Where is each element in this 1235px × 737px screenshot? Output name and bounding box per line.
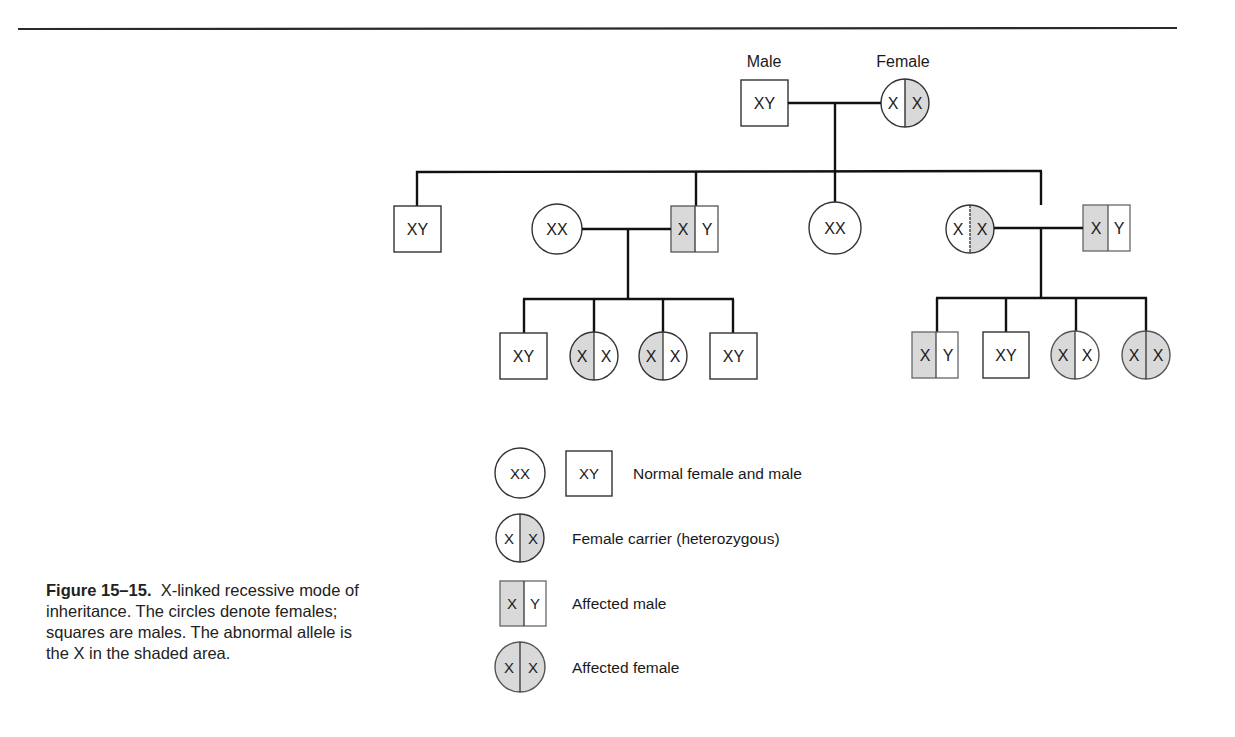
legend-label-normal: Normal female and male: [633, 465, 802, 482]
g2-spouse-1-normal-female: XX: [532, 204, 582, 254]
svg-text:X: X: [953, 221, 964, 238]
g1-mother-carrier-female: X X: [881, 79, 929, 127]
svg-text:X: X: [504, 659, 514, 676]
top-rule: [18, 28, 1177, 29]
legend-row-affected-female: X X Affected female: [495, 642, 679, 692]
svg-text:X: X: [601, 348, 612, 365]
svg-text:X: X: [1082, 347, 1093, 364]
g2-spouse-2-affected-male: X Y: [1083, 205, 1130, 251]
g2-son-2-affected-male: X Y: [671, 206, 718, 252]
legend-row-normal: XX XY Normal female and male: [495, 448, 802, 498]
g3l-1-normal-male: XY: [500, 333, 547, 379]
g2-son-1-normal-male: XY: [394, 206, 441, 252]
legend-label-carrier: Female carrier (heterozygous): [572, 530, 780, 547]
svg-text:XY: XY: [723, 348, 745, 365]
svg-text:X: X: [670, 348, 681, 365]
g3r-4-affected-female: X X: [1122, 331, 1170, 379]
svg-text:X: X: [888, 95, 899, 112]
g2-daughter-1-normal-female: XX: [809, 202, 861, 254]
svg-text:X: X: [1091, 220, 1102, 237]
svg-text:XY: XY: [995, 347, 1017, 364]
figure-caption-label: Figure 15–15.: [46, 581, 151, 599]
svg-text:X: X: [646, 348, 657, 365]
generation-1: Male Female XY X X: [741, 53, 930, 172]
legend-label-affected-male: Affected male: [572, 595, 667, 612]
svg-text:X: X: [528, 659, 538, 676]
generation-3-right: X Y XY X X X X: [912, 331, 1170, 379]
generation-2: XY XX X Y XX X X X: [394, 202, 1130, 299]
g2-daughter-2-carrier-female: X X: [946, 205, 994, 253]
svg-text:Y: Y: [702, 221, 713, 238]
svg-text:X: X: [912, 95, 923, 112]
g3l-4-normal-male: XY: [710, 333, 757, 379]
svg-text:Y: Y: [530, 595, 540, 612]
legend-row-affected-male: X Y Affected male: [500, 581, 667, 626]
g3r-2-normal-male: XY: [983, 332, 1029, 378]
svg-text:X: X: [920, 347, 931, 364]
male-label: Male: [747, 53, 782, 70]
svg-text:X: X: [504, 530, 514, 547]
svg-text:X: X: [577, 348, 588, 365]
generation-3-left: XY X X X X XY: [500, 332, 757, 380]
svg-text:X: X: [977, 221, 988, 238]
g3r-3-carrier-female: X X: [1051, 331, 1099, 379]
svg-text:XY: XY: [407, 221, 429, 238]
svg-text:Y: Y: [943, 347, 954, 364]
svg-text:XY: XY: [579, 465, 599, 482]
svg-text:XX: XX: [510, 465, 530, 482]
g1-father-normal-male: XY: [741, 80, 788, 126]
svg-text:X: X: [1153, 347, 1164, 364]
legend: XX XY Normal female and male X X Female …: [495, 448, 802, 692]
svg-text:XY: XY: [754, 95, 776, 112]
legend-row-carrier: X X Female carrier (heterozygous): [496, 514, 780, 562]
g3r-1-affected-male: X Y: [912, 332, 958, 378]
svg-text:XX: XX: [824, 220, 846, 237]
svg-text:Y: Y: [1114, 220, 1125, 237]
female-label: Female: [876, 53, 929, 70]
legend-label-affected-female: Affected female: [572, 659, 679, 676]
svg-text:X: X: [507, 595, 517, 612]
svg-text:X: X: [1129, 347, 1140, 364]
svg-text:X: X: [528, 530, 538, 547]
svg-text:X: X: [1058, 347, 1069, 364]
g3l-3-carrier-female: X X: [639, 332, 687, 380]
sibship-lines-g2: [416, 171, 1042, 206]
g3l-2-carrier-female: X X: [570, 332, 618, 380]
sibship-lines-g3: [523, 298, 1147, 333]
figure-caption: Figure 15–15. X-linked recessive mode of…: [46, 580, 376, 664]
svg-text:XY: XY: [513, 348, 535, 365]
svg-text:XX: XX: [546, 221, 568, 238]
svg-text:X: X: [678, 221, 689, 238]
